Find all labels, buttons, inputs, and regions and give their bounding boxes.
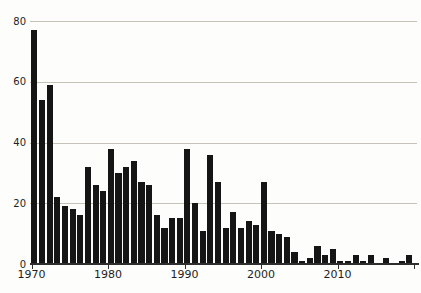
bar-2002 (276, 234, 282, 264)
bar-1998 (246, 221, 252, 264)
bar-1997 (238, 228, 244, 264)
bar-1971 (39, 100, 45, 264)
plot-area: 19701980199020002010020406080 (0, 0, 421, 293)
x-tick-2020 (414, 265, 415, 269)
y-tick-label-20: 20 (2, 198, 26, 209)
bar-1980 (108, 149, 114, 264)
bar-1972 (47, 85, 53, 264)
bar-1999 (253, 225, 259, 264)
bar-1976 (77, 215, 83, 264)
bar-1977 (85, 167, 91, 264)
gridline-y-40 (30, 143, 417, 144)
bar-1981 (115, 173, 121, 264)
bar-1973 (54, 197, 60, 264)
bar-1983 (131, 161, 137, 264)
x-tick-label-1990: 1990 (169, 269, 201, 281)
bar-2001 (268, 231, 274, 264)
y-tick-label-0: 0 (2, 259, 26, 270)
y-tick-label-40: 40 (2, 137, 26, 148)
x-axis-line (30, 263, 419, 265)
x-tick-label-1970: 1970 (16, 269, 48, 281)
bar-1989 (177, 218, 183, 264)
bar-1985 (146, 185, 152, 264)
bar-1990 (184, 149, 190, 264)
bar-2007 (314, 246, 320, 264)
bar-1993 (207, 155, 213, 264)
x-tick-label-1980: 1980 (92, 269, 124, 281)
bar-2009 (330, 249, 336, 264)
bar-1974 (62, 206, 68, 264)
bar-chart: 19701980199020002010020406080 (0, 0, 421, 293)
bar-1992 (200, 231, 206, 264)
bar-1988 (169, 218, 175, 264)
bar-2000 (261, 182, 267, 264)
bar-1970 (31, 30, 37, 264)
bar-1982 (123, 167, 129, 264)
bar-1996 (230, 212, 236, 264)
bar-1991 (192, 203, 198, 264)
bar-1979 (100, 191, 106, 264)
bar-1987 (161, 228, 167, 264)
bar-1975 (70, 209, 76, 264)
bar-1984 (138, 182, 144, 264)
bar-1978 (93, 185, 99, 264)
y-tick-label-80: 80 (2, 16, 26, 27)
bar-1986 (154, 215, 160, 264)
gridline-y-60 (30, 82, 417, 83)
bar-2003 (284, 237, 290, 264)
bar-1994 (215, 182, 221, 264)
gridline-y-80 (30, 21, 417, 22)
x-tick-label-2010: 2010 (322, 269, 354, 281)
bar-1995 (223, 228, 229, 264)
x-tick-label-2000: 2000 (245, 269, 277, 281)
y-tick-label-60: 60 (2, 76, 26, 87)
